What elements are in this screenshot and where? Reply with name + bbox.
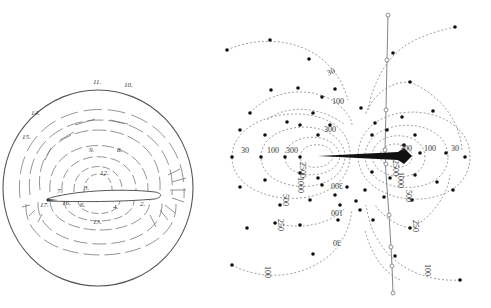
contour-value-label: 1000	[296, 177, 305, 193]
sketch-number-label: 6.	[80, 201, 86, 209]
contour-value-label: 30	[325, 66, 336, 78]
contour-value-label: 300	[286, 146, 298, 155]
contour-value-label: 300	[331, 181, 343, 190]
sketch-number-label: 4.	[113, 203, 119, 211]
contour-value-label: 100	[423, 264, 432, 276]
sketch-number-label: 3.	[83, 184, 90, 192]
contour-value-label: 300	[324, 125, 336, 134]
sketch-number-label: 17.	[40, 201, 49, 209]
contour-value-label: 500	[281, 194, 290, 206]
contour-value-label: 250	[276, 219, 285, 231]
sketch-number-label: 7.	[57, 187, 63, 195]
contour-value-label: 500	[404, 190, 413, 202]
contour-value-label: 250	[411, 220, 420, 232]
contour-value-label: 100	[267, 146, 279, 155]
left-sketch-panel: 11.10.14.15.9.8.12.7.3.17.16.6.4.2.13.	[3, 78, 193, 286]
contour-value-label: 30	[241, 146, 249, 155]
contour-value-label: 100	[332, 97, 344, 106]
sketch-number-label: 12.	[100, 169, 109, 177]
sketch-number-labels: 11.10.14.15.9.8.12.7.3.17.16.6.4.2.13.	[22, 78, 146, 226]
sketch-number-label: 9.	[89, 146, 95, 154]
sketch-number-label: 8.	[117, 146, 123, 154]
sketch-number-label: 10.	[124, 81, 133, 89]
contour-value-label: 300	[400, 144, 412, 153]
equipotential-curves	[227, 27, 470, 280]
contour-value-label: 100	[331, 208, 343, 217]
right-field-map: 3010030030100300250010005003001003025010…	[225, 13, 470, 295]
field-lines-sketch	[19, 110, 186, 256]
contour-value-label: 1000	[396, 172, 405, 188]
sketch-number-label: 11.	[93, 78, 101, 86]
contour-value-label: 30	[451, 144, 459, 153]
contour-value-label: 2500	[298, 162, 307, 178]
sketch-number-label: 15.	[22, 133, 31, 141]
sketch-number-label: 13.	[93, 218, 102, 226]
figure-canvas: 11.10.14.15.9.8.12.7.3.17.16.6.4.2.13.	[0, 0, 491, 308]
contour-value-labels: 3010030030100300250010005003001003025010…	[241, 66, 459, 278]
contour-value-label: 30	[333, 238, 341, 247]
sketch-number-label: 2.	[140, 200, 146, 208]
sample-points	[225, 25, 467, 282]
contour-value-label: 100	[263, 266, 272, 278]
contour-value-label: 100	[424, 144, 436, 153]
sketch-boundary-circle	[3, 90, 193, 286]
sketch-number-label: 16.	[62, 199, 71, 207]
sketch-number-label: 14.	[31, 109, 40, 117]
